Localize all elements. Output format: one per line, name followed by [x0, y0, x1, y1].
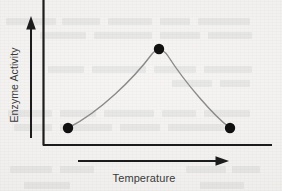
y-axis-arrow-icon: [26, 16, 36, 138]
data-point-low-temperature: [63, 123, 73, 133]
data-point-high-temperature: [225, 123, 235, 133]
y-axis-label: Enzyme Activity: [8, 47, 20, 122]
x-axis-arrow-icon: [78, 156, 229, 166]
x-axis-label: Temperature: [113, 172, 176, 184]
enzyme-activity-curve: [68, 50, 230, 128]
plot-area: [0, 0, 282, 191]
chart-figure: Enzyme Activity Temperature: [0, 0, 282, 191]
data-point-optimum-temperature: [154, 44, 164, 54]
